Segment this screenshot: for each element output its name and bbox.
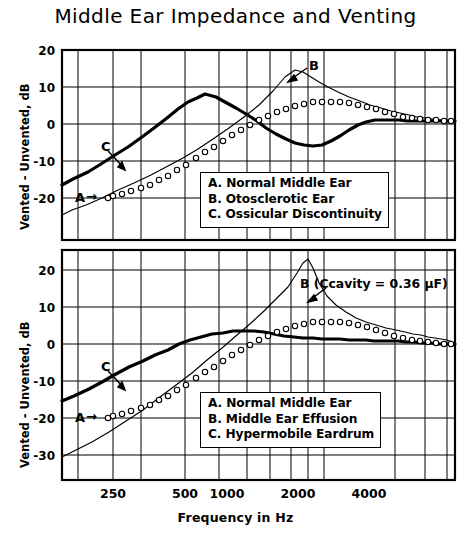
- bottom-annotation-a: A: [75, 410, 85, 425]
- bot-ytick-0: 0: [22, 338, 55, 352]
- bot-ytick-20: 20: [22, 264, 55, 278]
- bottom-legend-item-a: A. Normal Middle Ear: [208, 396, 374, 412]
- xtick-2000: 2000: [272, 486, 324, 501]
- bottom-annotation-b: B (Ccavity = 0.36 µF): [300, 276, 448, 291]
- top-annotation-c: C: [101, 139, 111, 154]
- figure-root: Middle Ear Impedance and Venting Vented …: [0, 0, 471, 537]
- bottom-chart-plot: [0, 0, 471, 537]
- top-ytick-m20: -20: [22, 192, 55, 206]
- top-ytick-10: 10: [22, 81, 55, 95]
- top-legend: A. Normal Middle Ear B. Otosclerotic Ear…: [200, 172, 389, 228]
- bot-ytick-m20: -20: [22, 412, 55, 426]
- top-annotation-a: A: [75, 190, 85, 205]
- top-ytick-0: 0: [22, 118, 55, 132]
- bottom-annotation-a-arrow: →: [86, 409, 97, 424]
- bottom-series-c-thick-line: [62, 331, 455, 401]
- top-legend-item-a: A. Normal Middle Ear: [208, 176, 382, 192]
- bottom-legend-item-c: C. Hypermobile Eardrum: [208, 427, 374, 443]
- xtick-4000: 4000: [343, 486, 395, 501]
- bot-ytick-m30: -30: [22, 449, 55, 463]
- top-ytick-20: 20: [22, 44, 55, 58]
- x-axis-label: Frequency in Hz: [0, 510, 471, 525]
- bot-ytick-m10: -10: [22, 375, 55, 389]
- xtick-250: 250: [89, 486, 137, 501]
- xtick-1000: 1000: [201, 486, 253, 501]
- page-title: Middle Ear Impedance and Venting: [0, 4, 471, 28]
- bot-ytick-10: 10: [22, 301, 55, 315]
- top-annotation-a-arrow: →: [86, 189, 97, 204]
- top-legend-item-c: C. Ossicular Discontinuity: [208, 207, 382, 223]
- bottom-annotation-c: C: [101, 359, 111, 374]
- bottom-legend-item-b: B. Middle Ear Effusion: [208, 412, 374, 428]
- bottom-legend: A. Normal Middle Ear B. Middle Ear Effus…: [200, 392, 381, 448]
- top-annotation-b: B: [309, 58, 319, 73]
- top-legend-item-b: B. Otosclerotic Ear: [208, 192, 382, 208]
- top-chart-plot: [0, 0, 471, 537]
- top-ytick-m10: -10: [22, 155, 55, 169]
